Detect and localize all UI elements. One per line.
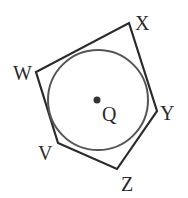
label-z: Z — [121, 173, 133, 195]
label-y: Y — [160, 102, 174, 124]
label-x: X — [135, 12, 150, 34]
label-v: V — [38, 142, 53, 164]
label-w: W — [13, 62, 32, 84]
center-point-q — [94, 97, 101, 104]
label-q: Q — [102, 103, 117, 125]
pentagon-vwxyz — [36, 23, 157, 169]
geometry-diagram: X Y Z V W Q — [0, 0, 188, 198]
